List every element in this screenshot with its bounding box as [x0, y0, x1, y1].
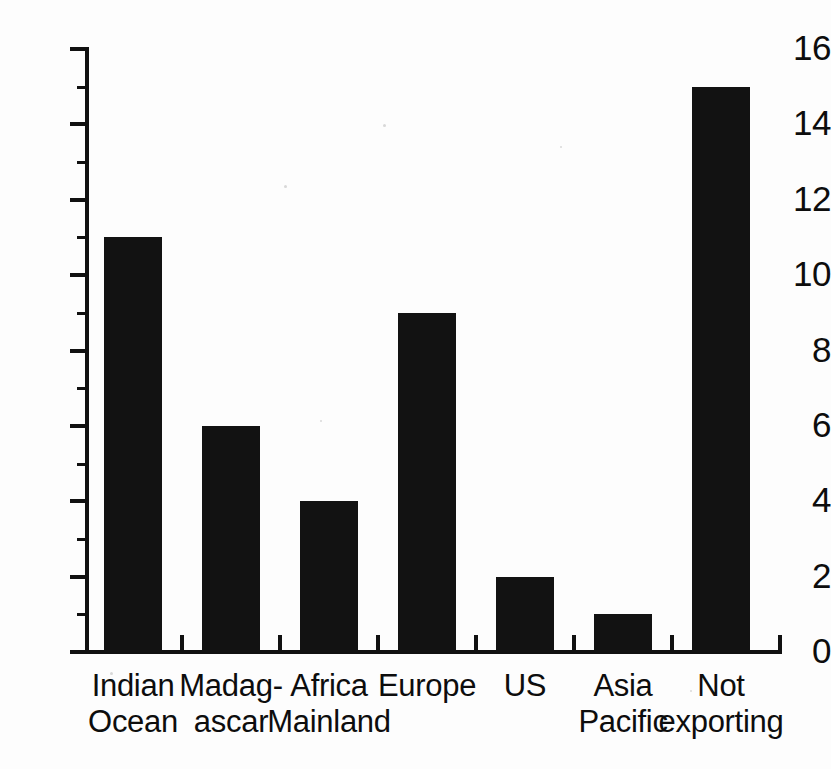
y-tick-minor [77, 538, 89, 541]
bar [496, 577, 554, 652]
y-tick-major [70, 122, 89, 126]
y-tick-label: 16 [775, 30, 831, 65]
x-tick [278, 635, 282, 652]
x-tick [180, 635, 184, 652]
y-tick-minor [77, 161, 89, 164]
y-tick-minor [77, 312, 89, 315]
y-tick-major [70, 575, 89, 579]
x-category-label: Notexporting [631, 668, 811, 740]
x-category-label-line2: exporting [631, 704, 811, 740]
y-tick-label: 0 [775, 633, 831, 668]
x-tick [670, 635, 674, 652]
y-tick-minor [77, 236, 89, 239]
y-tick-label: 4 [775, 482, 831, 517]
y-tick-label: 14 [775, 105, 831, 140]
x-tick [474, 635, 478, 652]
x-tick [572, 635, 576, 652]
y-tick-minor [77, 463, 89, 466]
x-tick [376, 635, 380, 652]
scan-speck [284, 185, 287, 188]
x-category-label-line1: Not [631, 668, 811, 704]
bar [398, 313, 456, 652]
bar [300, 501, 358, 652]
x-category-label-line2: Mainland [239, 704, 419, 740]
bar-chart: 1614121086420 IndianOceanMadag-ascarAfri… [0, 0, 831, 769]
y-tick-label: 12 [775, 181, 831, 216]
y-tick-major [70, 499, 89, 503]
y-tick-minor [77, 387, 89, 390]
y-tick-minor [77, 613, 89, 616]
scan-speck [320, 420, 322, 422]
bar [104, 237, 162, 652]
bar [202, 426, 260, 652]
y-tick-major [70, 424, 89, 428]
scan-speck [560, 146, 562, 148]
y-tick-major [70, 198, 89, 202]
bar [692, 87, 750, 652]
y-tick-major [70, 47, 89, 51]
y-tick-label: 8 [775, 332, 831, 367]
scan-speck [383, 124, 386, 127]
y-tick-label: 6 [775, 407, 831, 442]
x-axis-end-tick [778, 635, 782, 652]
y-tick-major [70, 273, 89, 277]
y-tick-label: 10 [775, 256, 831, 291]
y-tick-major [70, 650, 89, 654]
y-tick-label: 2 [775, 558, 831, 593]
y-tick-minor [77, 86, 89, 89]
y-tick-major [70, 349, 89, 353]
bar [594, 614, 652, 652]
